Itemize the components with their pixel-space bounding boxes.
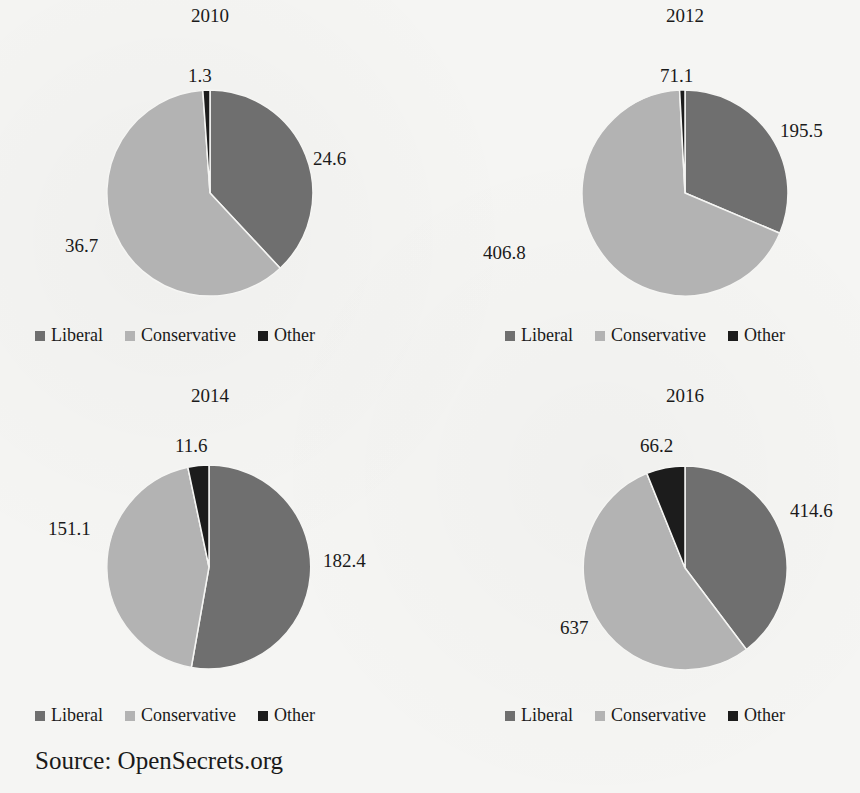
legend-label: Conservative <box>141 325 236 346</box>
legend-item-liberal: Liberal <box>35 705 103 726</box>
legend-item-liberal: Liberal <box>505 325 573 346</box>
label-other: 71.1 <box>660 65 693 87</box>
label-conservative: 36.7 <box>65 235 98 257</box>
pie-slices <box>583 466 787 670</box>
label-liberal: 414.6 <box>790 500 833 522</box>
pie-chart-2016: 2016 66.2 414.6 637 Liberal Conservative… <box>430 380 860 720</box>
legend-label: Other <box>274 325 315 346</box>
legend-label: Conservative <box>611 325 706 346</box>
legend-label: Other <box>274 705 315 726</box>
pie-chart-2012: 2012 71.1 195.5 406.8 Liberal Conservati… <box>430 0 860 340</box>
swatch-liberal-icon <box>35 331 45 341</box>
swatch-other-icon <box>258 331 268 341</box>
swatch-liberal-icon <box>505 331 515 341</box>
swatch-other-icon <box>258 711 268 721</box>
swatch-other-icon <box>728 711 738 721</box>
legend: Liberal Conservative Other <box>35 325 315 346</box>
legend: Liberal Conservative Other <box>505 325 785 346</box>
swatch-other-icon <box>728 331 738 341</box>
label-other: 11.6 <box>175 435 208 457</box>
legend-label: Other <box>744 705 785 726</box>
legend: Liberal Conservative Other <box>35 705 315 726</box>
legend-label: Conservative <box>611 705 706 726</box>
legend-item-conservative: Conservative <box>125 325 236 346</box>
legend-item-other: Other <box>728 325 785 346</box>
legend-item-liberal: Liberal <box>35 325 103 346</box>
legend-item-conservative: Conservative <box>595 325 706 346</box>
legend-item-conservative: Conservative <box>595 705 706 726</box>
label-other: 66.2 <box>640 435 673 457</box>
pie-slices <box>582 90 788 296</box>
pie-slices <box>107 465 311 669</box>
legend-label: Other <box>744 325 785 346</box>
swatch-conservative-icon <box>595 711 605 721</box>
swatch-liberal-icon <box>35 711 45 721</box>
swatch-liberal-icon <box>505 711 515 721</box>
legend-label: Liberal <box>51 705 103 726</box>
label-conservative: 406.8 <box>483 242 526 264</box>
legend-label: Conservative <box>141 705 236 726</box>
pie-chart-2010: 2010 1.3 24.6 36.7 Liberal Conservative … <box>0 0 430 340</box>
label-liberal: 182.4 <box>323 550 366 572</box>
legend-label: Liberal <box>51 325 103 346</box>
legend-item-liberal: Liberal <box>505 705 573 726</box>
legend-item-other: Other <box>258 705 315 726</box>
label-liberal: 24.6 <box>313 148 346 170</box>
swatch-conservative-icon <box>125 711 135 721</box>
label-other: 1.3 <box>188 65 212 87</box>
legend-item-conservative: Conservative <box>125 705 236 726</box>
legend-label: Liberal <box>521 705 573 726</box>
swatch-conservative-icon <box>125 331 135 341</box>
legend-item-other: Other <box>728 705 785 726</box>
legend: Liberal Conservative Other <box>505 705 785 726</box>
pie-chart-2014: 2014 11.6 182.4 151.1 Liberal Conservati… <box>0 380 430 720</box>
pie-slices <box>107 90 313 296</box>
label-conservative: 151.1 <box>48 518 91 540</box>
label-conservative: 637 <box>560 617 589 639</box>
source-note: Source: OpenSecrets.org <box>35 747 283 775</box>
pie-svg <box>430 380 860 720</box>
pie-svg <box>0 0 430 340</box>
swatch-conservative-icon <box>595 331 605 341</box>
legend-label: Liberal <box>521 325 573 346</box>
label-liberal: 195.5 <box>780 120 823 142</box>
legend-item-other: Other <box>258 325 315 346</box>
pie-svg <box>430 0 860 340</box>
